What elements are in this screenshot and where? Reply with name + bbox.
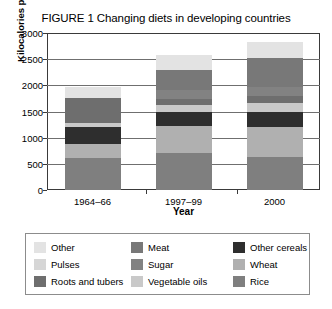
bar-segment-other[interactable]	[65, 87, 121, 98]
legend-swatch-icon	[34, 276, 46, 287]
legend-item-rice[interactable]: Rice	[233, 276, 313, 287]
legend-item-wheat[interactable]: Wheat	[233, 259, 313, 270]
bar-segment-other-cereals[interactable]	[156, 112, 212, 126]
bar-segment-other[interactable]	[156, 55, 212, 70]
stacked-bar[interactable]	[156, 55, 212, 190]
y-axis-label: Kilocalories per capita per day	[15, 0, 26, 73]
legend-label: Meat	[148, 242, 169, 253]
bar-segment-wheat[interactable]	[65, 144, 121, 158]
legend-label: Pulses	[51, 259, 80, 270]
bar-segment-other[interactable]	[247, 42, 303, 58]
legend-label: Other cereals	[250, 242, 307, 253]
legend-item-roots-and-tubers[interactable]: Roots and tubers	[34, 276, 131, 287]
bar-segment-rice[interactable]	[156, 153, 212, 190]
legend-label: Rice	[250, 276, 269, 287]
bar-segment-rice[interactable]	[65, 158, 121, 190]
bar-segment-vegetable-oils[interactable]	[156, 105, 212, 112]
legend-label: Other	[51, 242, 75, 253]
legend-swatch-icon	[131, 276, 143, 287]
bar-segment-other-cereals[interactable]	[65, 127, 121, 144]
y-tick-label: 1000	[13, 132, 43, 143]
legend-item-meat[interactable]: Meat	[131, 242, 233, 253]
plot-area: 050010001500200025003000 Kilocalories pe…	[47, 33, 320, 190]
y-tick-label: 0	[13, 185, 43, 196]
bar-segment-sugar[interactable]	[156, 90, 212, 99]
x-axis-label: Year	[47, 206, 320, 217]
bar-segment-vegetable-oils[interactable]	[247, 103, 303, 111]
stacked-bar[interactable]	[247, 42, 303, 190]
legend-item-other[interactable]: Other	[34, 242, 131, 253]
legend-label: Wheat	[250, 259, 277, 270]
y-tick-label: 2000	[13, 80, 43, 91]
legend-item-pulses[interactable]: Pulses	[34, 259, 131, 270]
bar-segment-wheat[interactable]	[156, 126, 212, 153]
chart-legend: OtherMeatOther cerealsPulsesSugarWheatRo…	[25, 233, 310, 295]
bar-segment-meat[interactable]	[156, 70, 212, 90]
bar-segment-rice[interactable]	[247, 157, 303, 190]
legend-item-vegetable-oils[interactable]: Vegetable oils	[131, 276, 233, 287]
legend-swatch-icon	[131, 259, 143, 270]
legend-swatch-icon	[34, 242, 46, 253]
figure-title: FIGURE 1 Changing diets in developing co…	[0, 12, 332, 24]
legend-swatch-icon	[233, 259, 245, 270]
stacked-bar[interactable]	[65, 87, 121, 190]
legend-swatch-icon	[233, 276, 245, 287]
legend-item-other-cereals[interactable]: Other cereals	[233, 242, 313, 253]
legend-label: Sugar	[148, 259, 173, 270]
legend-swatch-icon	[34, 259, 46, 270]
legend-swatch-icon	[233, 242, 245, 253]
legend-swatch-icon	[131, 242, 143, 253]
y-tick-label: 500	[13, 158, 43, 169]
bar-segment-roots-and-tubers[interactable]	[247, 96, 303, 103]
bar-segment-wheat[interactable]	[247, 127, 303, 157]
bar-segment-sugar[interactable]	[247, 87, 303, 96]
figure-container: FIGURE 1 Changing diets in developing co…	[0, 0, 332, 309]
y-tick-label: 1500	[13, 106, 43, 117]
bar-group	[47, 33, 320, 190]
x-tick-mark	[146, 190, 147, 194]
bar-segment-roots-and-tubers[interactable]	[65, 98, 121, 123]
legend-label: Roots and tubers	[51, 276, 123, 287]
x-tick-mark	[237, 190, 238, 194]
y-tick-mark	[43, 190, 47, 191]
legend-label: Vegetable oils	[148, 276, 207, 287]
bar-segment-other-cereals[interactable]	[247, 112, 303, 128]
legend-item-sugar[interactable]: Sugar	[131, 259, 233, 270]
bar-segment-meat[interactable]	[247, 58, 303, 88]
